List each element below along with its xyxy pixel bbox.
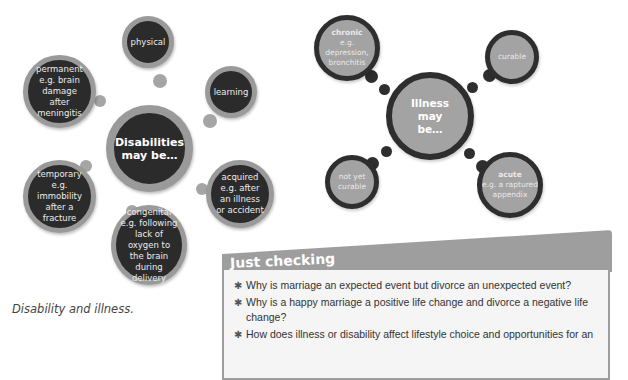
connector-dot: [153, 74, 167, 88]
figure-caption: Disability and illness.: [12, 302, 134, 316]
disability-center: Disabilities may be…: [106, 105, 193, 192]
node-permanent: permanent e.g. brain damage after mening…: [23, 55, 96, 128]
illness-center: Illness may be…: [386, 72, 474, 160]
node-chronic: chronice.g. depression, bronchitis: [314, 15, 380, 81]
question-item: Why is marriage an expected event but di…: [234, 278, 604, 293]
question-item: Why is a happy marriage a positive life …: [234, 295, 604, 325]
node-acquired: acquired e.g. after an illness or accide…: [206, 160, 274, 228]
question-item: How does illness or disability affect li…: [234, 327, 604, 342]
just-checking-box: Just checking Why is marriage an expecte…: [222, 230, 612, 370]
node-not-yet-curable: not yet curable: [325, 155, 379, 209]
connector-dot: [467, 82, 478, 93]
connector-dot: [464, 148, 475, 159]
node-physical: physical: [122, 16, 174, 68]
node-temporary: temporary e.g. immobility after a fractu…: [23, 160, 96, 233]
connector-dot: [203, 114, 217, 128]
question-list: Why is marriage an expected event but di…: [224, 270, 608, 342]
connector-dot: [381, 146, 392, 157]
node-curable: curable: [485, 30, 539, 84]
node-congenital: congenital e.g. following lack of oxygen…: [111, 205, 187, 285]
connector-dot: [94, 95, 106, 107]
node-acute: acutee.g. a raptured appendix: [477, 152, 543, 218]
node-learning: learning: [205, 66, 257, 118]
just-checking-body: Why is marriage an expected event but di…: [222, 270, 610, 380]
connector-dot: [379, 84, 390, 95]
